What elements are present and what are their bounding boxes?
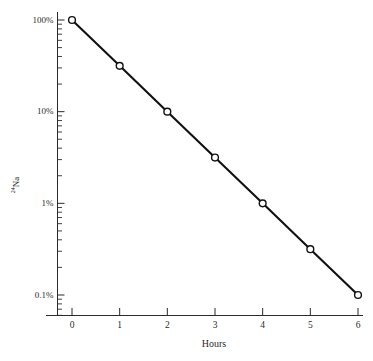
data-point-marker	[69, 17, 76, 24]
x-tick-label: 3	[213, 320, 218, 330]
x-tick-label: 5	[308, 320, 313, 330]
data-point-marker	[259, 200, 266, 207]
chart-background	[0, 0, 373, 361]
chart-container: 100%10%1%0.1% 0123456 Hours 24Na	[0, 0, 373, 361]
y-tick-label: 1%	[42, 198, 55, 208]
data-point-marker	[307, 246, 314, 253]
x-tick-label: 1	[117, 320, 122, 330]
x-tick-label: 2	[165, 320, 170, 330]
y-tick-label: 100%	[33, 15, 55, 25]
data-point-marker	[355, 292, 362, 299]
data-point-marker	[212, 154, 219, 161]
y-tick-label: 0.1%	[35, 290, 54, 300]
data-point-marker	[164, 108, 171, 115]
x-axis-title: Hours	[202, 338, 227, 349]
data-point-marker	[116, 62, 123, 69]
x-tick-label: 4	[260, 320, 265, 330]
x-tick-label: 0	[70, 320, 75, 330]
decay-chart-svg: 100%10%1%0.1% 0123456 Hours 24Na	[0, 0, 373, 361]
y-tick-label: 10%	[37, 106, 54, 116]
x-tick-label: 6	[356, 320, 361, 330]
